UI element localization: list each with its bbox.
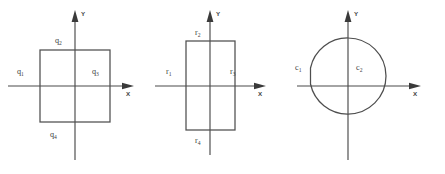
region-label-q4: q4 xyxy=(50,130,57,140)
region-label-r3-sub: 3 xyxy=(233,71,236,77)
region-label-q2: q2 xyxy=(55,36,62,46)
region-label-q2-sub: 2 xyxy=(59,40,62,46)
x-axis-label-3: X xyxy=(413,90,418,97)
region-label-c2-sub: 2 xyxy=(360,67,363,73)
figure-panel: Y X q1 q2 q3 q4 xyxy=(0,0,445,174)
y-axis-arrowhead-3 xyxy=(345,10,352,22)
y-axis-arrowhead-2 xyxy=(207,10,214,22)
y-axis-label-2: Y xyxy=(216,10,221,17)
figure-rectangle-diagram: Y X r1 r2 r3 r4 xyxy=(150,0,295,174)
region-label-q3-sub: 3 xyxy=(96,71,99,77)
region-label-r1: r1 xyxy=(166,67,172,77)
y-axis-label-3: Y xyxy=(354,10,359,17)
region-label-q1-sub: 1 xyxy=(21,71,24,77)
region-label-r1-sub: 1 xyxy=(169,71,172,77)
y-axis-arrowhead-1 xyxy=(72,10,79,22)
region-label-q3: q3 xyxy=(92,67,99,77)
region-label-c2: c2 xyxy=(356,63,363,73)
region-label-q4-sub: 4 xyxy=(54,134,57,140)
x-axis-arrowhead-2 xyxy=(254,83,266,90)
region-label-r2-sub: 2 xyxy=(198,32,201,38)
region-label-r4-sub: 4 xyxy=(198,140,201,146)
x-axis-arrowhead-1 xyxy=(122,83,134,90)
x-axis-label-2: X xyxy=(258,90,263,97)
region-label-c1: c1 xyxy=(295,63,302,73)
figure-circle-diagram: Y X c1 c2 xyxy=(295,0,445,174)
region-label-c1-sub: 1 xyxy=(299,67,302,73)
x-axis-label-1: X xyxy=(126,90,131,97)
region-label-q1: q1 xyxy=(17,67,24,77)
figure-square-diagram: Y X q1 q2 q3 q4 xyxy=(0,0,150,174)
region-label-r2: r2 xyxy=(195,28,201,38)
y-axis-label-1: Y xyxy=(81,10,86,17)
region-label-r4: r4 xyxy=(195,136,201,146)
x-axis-arrowhead-3 xyxy=(409,83,421,90)
